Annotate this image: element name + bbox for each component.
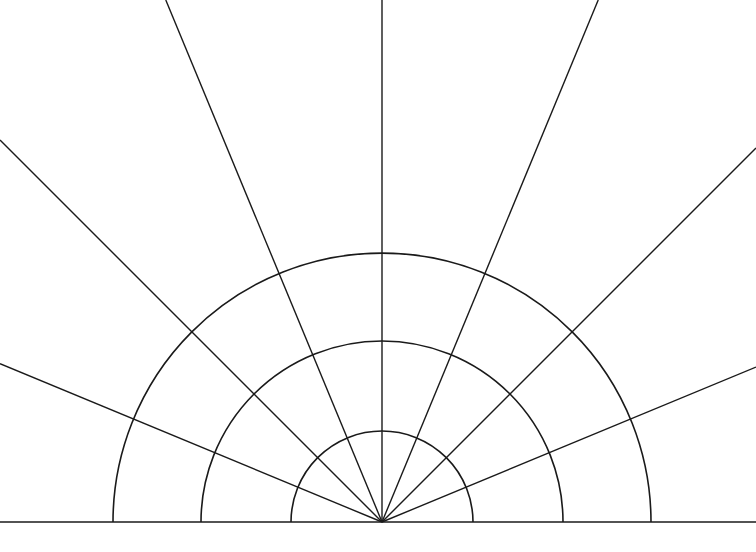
radial-line-0 bbox=[382, 367, 756, 522]
radial-lines bbox=[0, 0, 756, 522]
radial-line-5 bbox=[0, 140, 382, 522]
radial-line-1 bbox=[382, 148, 756, 522]
radial-line-2 bbox=[382, 0, 598, 522]
radial-line-6 bbox=[0, 364, 382, 522]
radial-line-4 bbox=[166, 0, 382, 522]
polar-grid-diagram bbox=[0, 0, 756, 552]
